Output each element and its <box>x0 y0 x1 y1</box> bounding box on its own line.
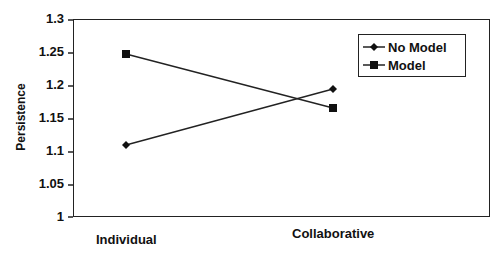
series-no-model <box>122 85 337 149</box>
diamond-line-icon <box>363 42 385 52</box>
square-marker-icon <box>122 50 130 58</box>
legend-item-no-model: No Model <box>363 39 447 55</box>
legend-label: Model <box>388 58 426 73</box>
diamond-marker-icon <box>122 141 130 149</box>
square-marker-icon <box>329 104 337 112</box>
series-model <box>122 50 337 112</box>
legend: No Model Model <box>358 34 466 77</box>
y-axis-ticks <box>68 20 73 217</box>
legend-label: No Model <box>388 40 447 55</box>
legend-item-model: Model <box>363 57 426 73</box>
diamond-marker-icon <box>329 85 337 93</box>
square-line-icon <box>363 60 385 70</box>
